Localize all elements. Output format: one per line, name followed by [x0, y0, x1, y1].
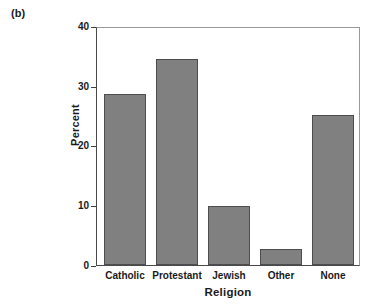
y-tick-label-0: 0: [67, 261, 89, 271]
y-tick-mark-0: [91, 266, 96, 267]
plot-area: [96, 27, 360, 266]
caption-sliver: [104, 299, 344, 304]
bar-none: [312, 115, 354, 265]
panel-label: (b): [11, 7, 25, 19]
bar-group: [97, 27, 359, 265]
y-tick-label-30: 30: [67, 82, 89, 92]
y-tick-label-40: 40: [67, 22, 89, 32]
figure-panel-b: (b) 40 30 20 10 0 Percent Catholic Prote…: [0, 0, 388, 304]
bar-catholic: [104, 94, 146, 265]
bar-jewish: [208, 206, 250, 266]
x-axis-label: Religion: [96, 286, 360, 298]
y-axis-label: Percent: [69, 95, 81, 155]
bar-protestant: [156, 59, 198, 266]
x-tick-label-none: None: [301, 270, 365, 282]
x-axis-tick-labels: Catholic Protestant Jewish Other None: [96, 270, 360, 284]
y-tick-label-10: 10: [67, 201, 89, 211]
bar-other: [260, 249, 302, 265]
